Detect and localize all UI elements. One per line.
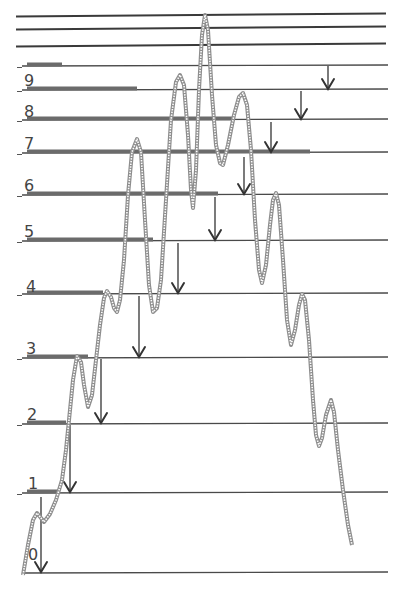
- down-arrow-icon: [295, 91, 307, 119]
- down-arrow-icon: [238, 157, 250, 194]
- down-arrow-icon: [209, 197, 221, 240]
- level-label-8: 8: [24, 102, 34, 121]
- down-arrow-icon: [322, 66, 334, 89]
- level-label-4: 4: [26, 277, 36, 296]
- level-line: [22, 492, 388, 493]
- level-label-0: 0: [28, 545, 38, 564]
- top-line: [16, 14, 386, 17]
- level-6: [17, 194, 388, 197]
- down-arrow-icon: [133, 296, 145, 357]
- wave-curve: [23, 15, 352, 575]
- level-label-3: 3: [26, 339, 36, 358]
- wave-curve-outline: [23, 15, 352, 575]
- level-8: [17, 119, 388, 122]
- level-line: [22, 65, 388, 66]
- level-label-9: 9: [24, 71, 34, 90]
- level-5: [17, 240, 388, 243]
- down-arrows: [35, 66, 334, 572]
- level-4: [17, 293, 388, 296]
- level-label-2: 2: [27, 405, 37, 424]
- level-lines: [17, 65, 388, 574]
- level-7: [17, 152, 388, 155]
- level-diagram: 0123456789: [0, 0, 406, 591]
- level-label-1: 1: [28, 474, 38, 493]
- level-label-7: 7: [24, 134, 34, 153]
- level-2: [17, 423, 388, 426]
- down-arrow-icon: [265, 122, 277, 152]
- level-9: [17, 89, 388, 92]
- down-arrow-icon: [172, 243, 184, 293]
- level-label-6: 6: [24, 176, 34, 195]
- level-3: [17, 357, 388, 360]
- level-labels: 0123456789: [24, 71, 38, 564]
- level-1: [17, 492, 388, 495]
- level-0: [22, 572, 388, 573]
- level-line: [22, 572, 388, 573]
- level-label-5: 5: [24, 222, 34, 241]
- level-line: [22, 423, 388, 424]
- level-top: [17, 65, 388, 68]
